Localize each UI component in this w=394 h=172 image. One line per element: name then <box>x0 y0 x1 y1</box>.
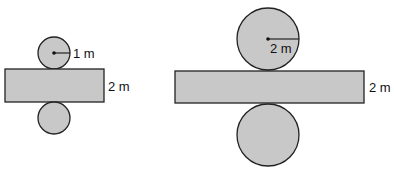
cylinder-nets-figure: 1 m 2 m 2 m 2 m <box>0 0 394 172</box>
small-rectangle <box>5 69 104 102</box>
large-radius-label: 2 m <box>270 41 292 56</box>
small-radius-label: 1 m <box>73 46 95 61</box>
large-bottom-circle <box>237 104 299 166</box>
large-cylinder-net: 2 m 2 m <box>175 8 391 166</box>
small-height-label: 2 m <box>108 79 130 94</box>
small-bottom-circle <box>38 102 70 134</box>
small-cylinder-net: 1 m 2 m <box>5 37 130 134</box>
small-center-dot <box>52 51 56 55</box>
large-height-label: 2 m <box>369 80 391 95</box>
large-rectangle <box>175 71 364 103</box>
